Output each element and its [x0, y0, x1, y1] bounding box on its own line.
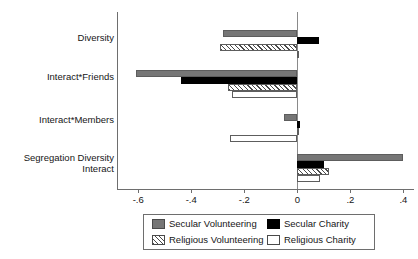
x-tick-label-5: .4 [383, 194, 418, 205]
legend-swatch-secular-charity [267, 219, 280, 229]
x-tick-1 [191, 189, 192, 193]
legend-label-religious-charity: Religious Charity [284, 233, 356, 247]
legend-label-secular-volunteering: Secular Volunteering [169, 217, 257, 231]
bar-3-0 [297, 154, 403, 161]
bar-3-2 [297, 168, 329, 175]
y-axis-label-0: Diversity [2, 32, 114, 43]
x-tick-label-0: -.6 [118, 194, 158, 205]
axis-left-spine [117, 12, 118, 189]
x-tick-label-1: -.4 [171, 194, 211, 205]
x-tick-0 [138, 189, 139, 193]
chart-legend: Secular Volunteering Secular Charity Rel… [143, 214, 375, 250]
bar-2-3 [230, 135, 298, 142]
bar-0-1 [297, 37, 318, 44]
bar-0-0 [223, 30, 297, 37]
x-tick-4 [350, 189, 351, 193]
bar-3-1 [297, 161, 324, 168]
bar-2-0 [284, 114, 297, 121]
axis-bottom-spine [117, 189, 414, 190]
bar-0-2 [220, 44, 297, 51]
x-tick-3 [297, 189, 298, 193]
y-axis-label-1: Interact*Friends [2, 71, 114, 82]
legend-swatch-secular-volunteering [152, 219, 165, 229]
y-axis-category-labels: Diversity Interact*Friends Interact*Memb… [0, 0, 114, 259]
plot-area: -.6-.4-.20.2.4 [117, 12, 414, 189]
bar-2-2 [297, 128, 299, 135]
x-tick-label-3: 0 [277, 194, 317, 205]
x-tick-2 [244, 189, 245, 193]
y-axis-label-2: Interact*Members [2, 114, 114, 125]
bar-1-0 [136, 70, 298, 77]
legend-swatch-religious-volunteering [152, 235, 165, 245]
legend-label-religious-volunteering: Religious Volunteering [169, 233, 264, 247]
legend-row-bottom: Religious Volunteering Religious Charity [144, 233, 376, 249]
bar-1-3 [232, 91, 297, 98]
legend-label-secular-charity: Secular Charity [284, 217, 349, 231]
x-tick-label-4: .2 [330, 194, 370, 205]
bar-chart: Diversity Interact*Friends Interact*Memb… [0, 0, 418, 259]
bar-0-3 [297, 51, 299, 58]
legend-row-top: Secular Volunteering Secular Charity [144, 217, 376, 233]
x-tick-label-2: -.2 [224, 194, 264, 205]
bar-3-3 [297, 175, 320, 182]
bar-2-1 [297, 121, 300, 128]
bar-1-1 [181, 77, 298, 84]
x-tick-5 [403, 189, 404, 193]
legend-swatch-religious-charity [267, 235, 280, 245]
bar-1-2 [228, 84, 297, 91]
y-axis-label-3: Segregation Diversity Interact [2, 152, 114, 174]
